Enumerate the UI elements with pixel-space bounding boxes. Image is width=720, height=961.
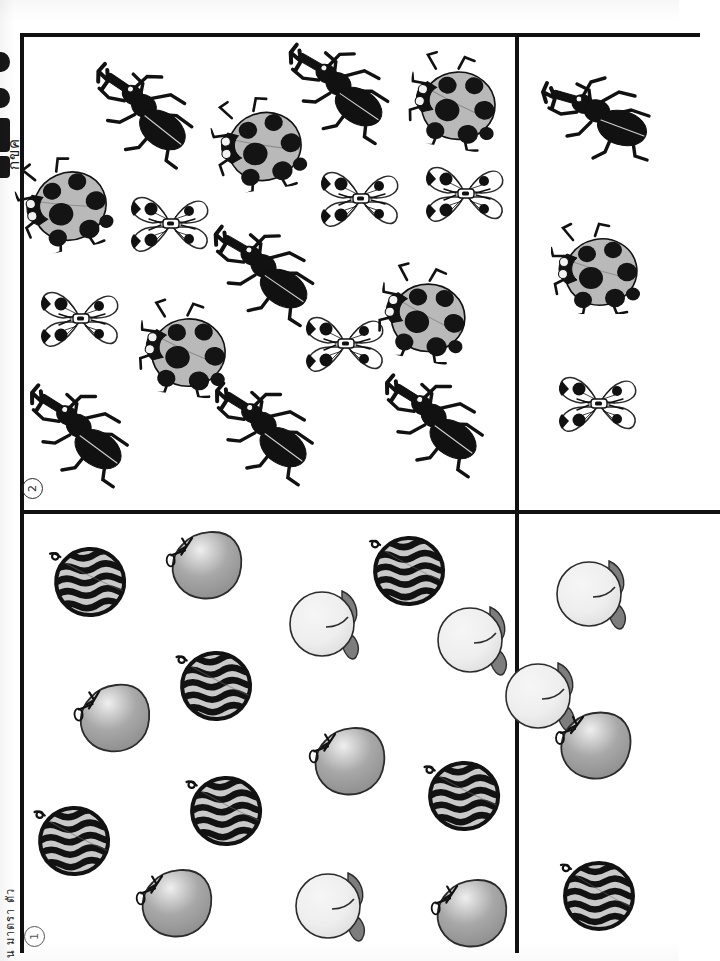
panel-fruits-legend: [521, 515, 679, 961]
watermelon-figure: [47, 538, 132, 621]
beetle-figure: [364, 362, 502, 481]
beetle-figure: [539, 72, 657, 162]
apple-figure: [162, 524, 249, 604]
panel-fruits-field: [24, 515, 514, 961]
apple-figure: [427, 872, 514, 952]
apple-figure: [553, 707, 635, 781]
mango-figure: [286, 583, 372, 665]
panel-insects-field: [24, 37, 514, 509]
panel-insects-legend: [521, 37, 679, 509]
butterfly-figure: [39, 282, 123, 356]
watermelon-figure: [174, 643, 258, 725]
apple-figure: [68, 676, 157, 758]
watermelon-figure: [184, 768, 268, 850]
watermelon-figure: [368, 529, 451, 610]
watermelon-figure: [422, 753, 506, 835]
butterfly-figure: [319, 162, 403, 236]
apple-figure: [132, 862, 219, 942]
mango-figure: [292, 865, 378, 947]
spine-blob: [0, 52, 10, 72]
ladybug-figure: [401, 47, 510, 156]
mango-figure: [553, 553, 639, 635]
ladybug-figure: [551, 222, 643, 314]
spine-blob: [0, 88, 10, 108]
beetle-figure: [194, 370, 332, 489]
page-spine-bleed: กขค น มาตรา ตัว: [0, 0, 20, 961]
apple-figure: [305, 720, 392, 800]
beetle-figure: [9, 372, 147, 491]
butterfly-figure: [424, 157, 508, 231]
ladybug-figure: [369, 257, 480, 368]
watermelon-figure: [32, 798, 116, 880]
butterfly-figure: [129, 187, 213, 261]
butterfly-figure: [557, 367, 641, 441]
watermelon-figure: [559, 855, 639, 933]
vertical-divider: [515, 33, 519, 953]
horizontal-divider: [20, 510, 720, 514]
ladybug-figure: [9, 147, 120, 258]
spine-bleed-text-bottom: น มาตรา ตัว: [1, 888, 19, 958]
